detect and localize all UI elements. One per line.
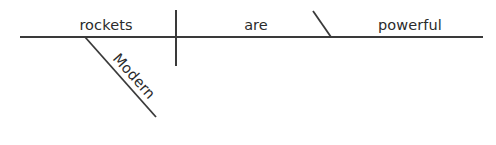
sentence-diagram-svg: rockets are powerful Modern: [0, 0, 496, 145]
sentence-diagram-canvas: rockets are powerful Modern: [0, 0, 496, 145]
predicate-complement-divider-line: [313, 11, 331, 37]
word-complement-powerful: powerful: [378, 17, 442, 33]
word-modifier-modern: Modern: [110, 50, 159, 102]
word-subject-rockets: rockets: [79, 17, 132, 33]
word-verb-are: are: [244, 17, 268, 33]
